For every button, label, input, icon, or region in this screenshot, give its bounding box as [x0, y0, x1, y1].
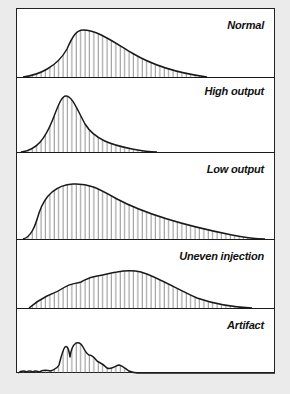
curve-uneven-injection: [29, 271, 252, 309]
curve-normal: [23, 30, 207, 77]
curve-figure: Normal High output Low output Uneven inj…: [16, 8, 275, 373]
curve-high-output: [21, 96, 157, 152]
curves-graphic: [17, 9, 276, 374]
curve-artifact: [18, 343, 275, 373]
curve-low-output: [23, 184, 265, 239]
